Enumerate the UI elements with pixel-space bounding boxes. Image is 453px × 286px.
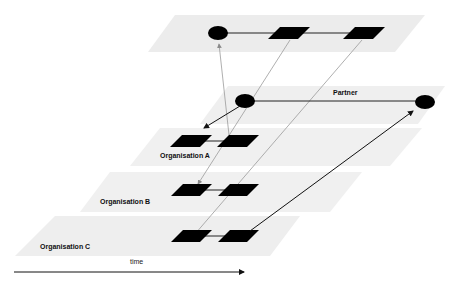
org-a-label: Organisation A — [160, 152, 210, 159]
top-node-ellipse — [208, 26, 228, 40]
org-b-label: Organisation B — [100, 198, 150, 205]
org-c-label: Organisation C — [40, 243, 90, 250]
plane-org-b — [80, 172, 362, 212]
partner-node-1 — [235, 94, 255, 108]
plane-org-c — [15, 216, 300, 256]
partner-node-2 — [415, 95, 435, 109]
time-axis-label: time — [130, 258, 143, 265]
partner-label: Partner — [333, 89, 358, 96]
plane-partner — [200, 86, 445, 124]
